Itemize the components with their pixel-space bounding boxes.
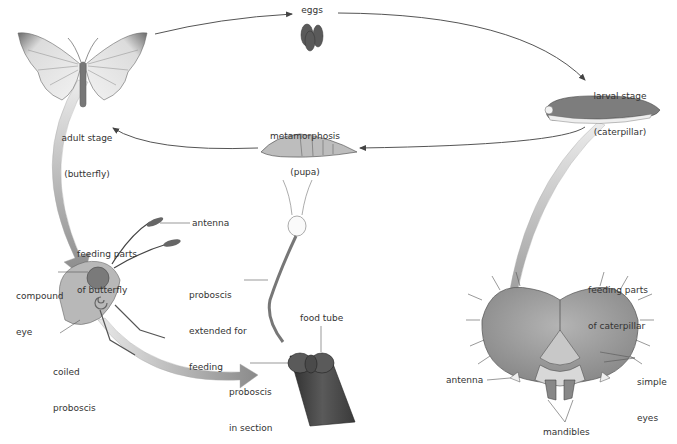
label-pe-1: proboscis: [189, 289, 247, 301]
proboscis-section-illustration: [288, 353, 355, 426]
butterfly-illustration: [18, 33, 147, 107]
label-cf-title-1: feeding parts: [588, 284, 648, 296]
label-bf-title-1: feeding parts: [77, 248, 137, 260]
label-mandibles: mandibles: [543, 426, 590, 438]
label-ps-1: proboscis: [229, 386, 272, 398]
label-ce-2: eye: [16, 326, 64, 338]
label-larval-line1: larval stage: [580, 90, 660, 102]
label-pupa-line1: metamorphosis: [265, 130, 345, 142]
label-butterfly-antenna: antenna: [192, 217, 229, 229]
label-caterpillar-antenna: antenna: [446, 374, 483, 386]
label-simple-eyes: simple eyes: [637, 352, 667, 436]
label-ps-2: in section: [229, 422, 272, 434]
cycle-arrows: [113, 13, 585, 149]
label-butterfly-feeding-title: feeding parts of butterfly: [77, 224, 137, 308]
label-se-1: simple: [637, 376, 667, 388]
label-proboscis-section: proboscis in section: [229, 362, 272, 444]
label-caterpillar-feeding-title: feeding parts of caterpillar: [588, 260, 648, 344]
arrow-larva-to-pupa: [360, 127, 585, 148]
label-adult-line2: (butterfly): [52, 168, 122, 180]
label-pupa: metamorphosis (pupa): [265, 106, 345, 190]
label-se-2: eyes: [637, 412, 667, 424]
label-pupa-line2: (pupa): [265, 166, 345, 178]
label-cp-2: proboscis: [53, 402, 96, 414]
arrow-eggs-to-larva: [338, 13, 585, 80]
label-eggs: eggs: [292, 4, 332, 16]
label-larval-stage: larval stage (caterpillar): [580, 66, 660, 150]
label-adult-stage: adult stage (butterfly): [52, 108, 122, 192]
label-larval-line2: (caterpillar): [580, 126, 660, 138]
life-cycle-diagram: [0, 0, 677, 444]
label-pe-2: extended for: [189, 325, 247, 337]
label-adult-line1: adult stage: [52, 132, 122, 144]
arrow-adult-to-eggs: [155, 14, 292, 34]
label-cf-title-2: of caterpillar: [588, 320, 648, 332]
label-ce-1: compound: [16, 290, 64, 302]
label-compound-eye: compound eye: [16, 266, 64, 350]
eggs-illustration: [301, 24, 323, 51]
arrow-pupa-to-adult: [113, 128, 258, 149]
label-coiled-proboscis: coiled proboscis: [53, 342, 96, 426]
label-bf-title-2: of butterfly: [77, 284, 137, 296]
label-food-tube: food tube: [300, 312, 343, 324]
label-cp-1: coiled: [53, 366, 96, 378]
